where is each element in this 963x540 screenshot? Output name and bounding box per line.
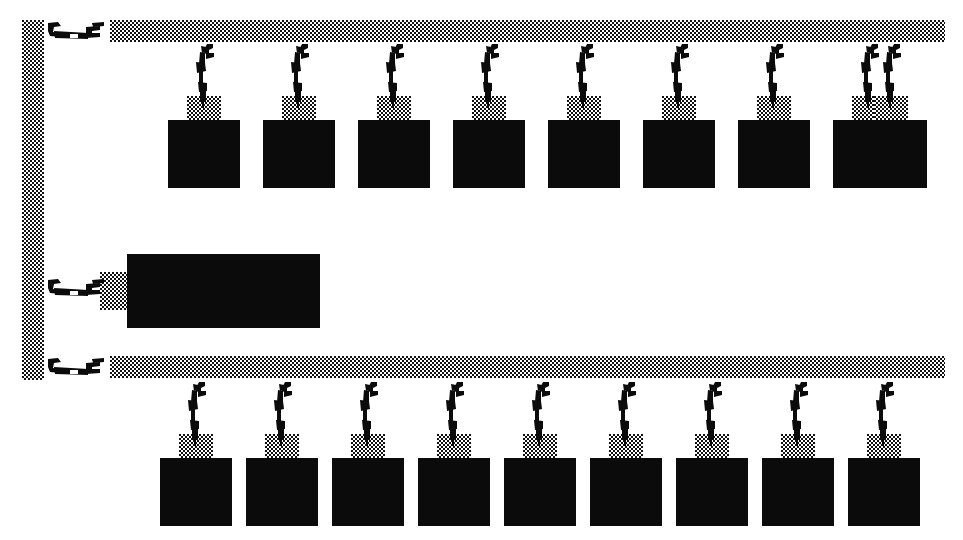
clamp-lower-rail-end — [48, 356, 108, 382]
clamp-middle-carrier — [48, 277, 108, 303]
carrier-15-block — [590, 458, 662, 526]
carrier-10-hanger — [179, 382, 213, 448]
carrier-5-hanger — [567, 44, 601, 110]
carrier-2-block — [263, 120, 335, 188]
carrier-10-block — [160, 458, 232, 526]
carrier-5-block — [548, 120, 620, 188]
technical-figure — [0, 0, 963, 540]
carrier-17-block — [762, 458, 834, 526]
carrier-14-block — [504, 458, 576, 526]
carrier-4-hanger — [472, 44, 506, 110]
carrier-14-hanger — [523, 382, 557, 448]
carrier-7-block — [738, 120, 810, 188]
carrier-15-hanger — [609, 382, 643, 448]
carrier-6-block — [643, 120, 715, 188]
carrier-9-hanger — [874, 44, 908, 110]
carrier-17-hanger — [781, 382, 815, 448]
carrier-12-hanger — [351, 382, 385, 448]
carrier-9-block — [855, 120, 927, 188]
carrier-11-block — [246, 458, 318, 526]
carrier-18-block — [848, 458, 920, 526]
vertical-left-rail — [22, 20, 44, 380]
carrier-3-hanger — [377, 44, 411, 110]
carrier-4-block — [453, 120, 525, 188]
carrier-1-hanger — [187, 44, 221, 110]
carrier-13-hanger — [437, 382, 471, 448]
carrier-7-hanger — [757, 44, 791, 110]
carrier-3-block — [358, 120, 430, 188]
carrier-12-block — [332, 458, 404, 526]
carrier-6-hanger — [662, 44, 696, 110]
carrier-2-hanger — [282, 44, 316, 110]
lower-horizontal-rail — [110, 356, 945, 378]
middle-carrier-block — [127, 254, 320, 328]
carrier-16-block — [676, 458, 748, 526]
carrier-18-hanger — [867, 382, 901, 448]
clamp-upper-rail-end — [48, 20, 108, 46]
carrier-11-hanger — [265, 382, 299, 448]
carrier-16-hanger — [695, 382, 729, 448]
upper-horizontal-rail — [110, 20, 945, 42]
carrier-1-block — [168, 120, 240, 188]
carrier-13-block — [418, 458, 490, 526]
